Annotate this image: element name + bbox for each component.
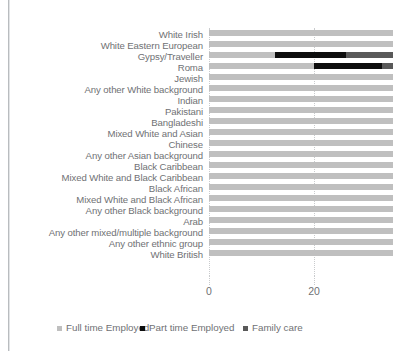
category-label: Pakistani — [165, 105, 203, 116]
chart-row: Any other mixed/multiple background — [0, 226, 414, 237]
bar-segment-full-time-employed — [209, 96, 393, 102]
x-tick-mark — [314, 276, 315, 285]
plot-area: White IrishWhite Eastern EuropeanGypsy/T… — [0, 28, 414, 276]
bar-segment-full-time-employed — [209, 162, 393, 168]
stacked-bar — [209, 195, 394, 201]
chart-container: White IrishWhite Eastern EuropeanGypsy/T… — [0, 0, 414, 351]
stacked-bar — [209, 206, 394, 212]
legend-item[interactable]: Family care — [243, 322, 303, 334]
category-label: Gypsy/Traveller — [138, 50, 203, 61]
stacked-bar — [209, 217, 394, 223]
chart-row: Indian — [0, 94, 414, 105]
stacked-bar — [209, 41, 394, 47]
bar-segment-full-time-employed — [209, 30, 393, 36]
stacked-bar — [209, 228, 394, 234]
category-label: White British — [150, 248, 203, 259]
x-tick-label: 0 — [206, 285, 212, 297]
bar-segment-full-time-employed — [209, 140, 393, 146]
category-label: Any other Asian background — [86, 149, 203, 160]
category-label: Mixed White and Black African — [76, 193, 203, 204]
stacked-bar — [209, 129, 394, 135]
bar-segment-full-time-employed — [209, 63, 314, 69]
category-label: Any other ethnic group — [109, 237, 203, 248]
category-label: Arab — [183, 215, 203, 226]
chart-row: Black African — [0, 182, 414, 193]
legend-swatch-icon — [140, 326, 145, 331]
bar-segment-full-time-employed — [209, 250, 393, 256]
category-rows: White IrishWhite Eastern EuropeanGypsy/T… — [0, 28, 414, 259]
chart-row: Any other White background — [0, 83, 414, 94]
stacked-bar — [209, 239, 394, 245]
chart-row: Any other ethnic group — [0, 237, 414, 248]
category-label: Bangladeshi — [151, 116, 203, 127]
stacked-bar — [209, 162, 394, 168]
chart-row: Mixed White and Black African — [0, 193, 414, 204]
bar-segment-full-time-employed — [209, 52, 275, 58]
bar-segment-part-time-employed — [275, 52, 346, 58]
chart-row: Pakistani — [0, 105, 414, 116]
category-label: White Irish — [159, 28, 203, 39]
category-label: Any other Black background — [86, 204, 203, 215]
bar-segment-full-time-employed — [209, 107, 393, 113]
category-label: White Eastern European — [101, 39, 203, 50]
bar-segment-full-time-employed — [209, 184, 393, 190]
x-axis: 020 — [0, 276, 414, 302]
bar-segment-full-time-employed — [209, 85, 393, 91]
bar-segment-part-time-employed — [314, 63, 382, 69]
chart-row: White Eastern European — [0, 39, 414, 50]
stacked-bar — [209, 52, 394, 58]
stacked-bar — [209, 63, 394, 69]
stacked-bar — [209, 30, 394, 36]
category-label: Jewish — [174, 72, 203, 83]
stacked-bar — [209, 184, 394, 190]
category-label: Any other mixed/multiple background — [49, 226, 203, 237]
bar-segment-full-time-employed — [209, 195, 393, 201]
stacked-bar — [209, 250, 394, 256]
chart-legend: Full time EmployedPart time EmployedFami… — [0, 318, 414, 338]
chart-row: Mixed White and Black Caribbean — [0, 171, 414, 182]
x-tick-label: 20 — [308, 285, 320, 297]
legend-item[interactable]: Part time Employed — [140, 322, 234, 334]
chart-row: Arab — [0, 215, 414, 226]
category-label: Mixed White and Black Caribbean — [62, 171, 203, 182]
category-label: Mixed White and Asian — [108, 127, 204, 138]
stacked-bar — [209, 173, 394, 179]
bar-segment-full-time-employed — [209, 41, 393, 47]
category-label: Roma — [178, 61, 203, 72]
legend-label: Part time Employed — [149, 322, 234, 334]
chart-row: Gypsy/Traveller — [0, 50, 414, 61]
chart-row: Bangladeshi — [0, 116, 414, 127]
bar-segment-full-time-employed — [209, 74, 393, 80]
stacked-bar — [209, 107, 394, 113]
stacked-bar — [209, 85, 394, 91]
legend-swatch-icon — [243, 326, 248, 331]
bar-segment-full-time-employed — [209, 173, 393, 179]
bar-segment-family-care — [346, 52, 393, 58]
category-label: Chinese — [169, 138, 204, 149]
chart-row: White British — [0, 248, 414, 259]
bar-segment-full-time-employed — [209, 151, 393, 157]
x-tick-mark — [209, 276, 210, 285]
legend-label: Full time Employed — [66, 322, 149, 334]
category-label: Any other White background — [85, 83, 203, 94]
chart-row: Jewish — [0, 72, 414, 83]
legend-item[interactable]: Full time Employed — [57, 322, 149, 334]
stacked-bar — [209, 140, 394, 146]
bar-segment-full-time-employed — [209, 118, 393, 124]
chart-row: Chinese — [0, 138, 414, 149]
stacked-bar — [209, 151, 394, 157]
chart-row: Mixed White and Asian — [0, 127, 414, 138]
chart-row: Black Caribbean — [0, 160, 414, 171]
legend-label: Family care — [252, 322, 303, 334]
category-label: Indian — [177, 94, 203, 105]
chart-row: Roma — [0, 61, 414, 72]
chart-row: White Irish — [0, 28, 414, 39]
legend-swatch-icon — [57, 326, 62, 331]
bar-segment-full-time-employed — [209, 228, 393, 234]
stacked-bar — [209, 118, 394, 124]
bar-segment-full-time-employed — [209, 239, 393, 245]
bar-segment-full-time-employed — [209, 217, 393, 223]
chart-row: Any other Black background — [0, 204, 414, 215]
chart-row: Any other Asian background — [0, 149, 414, 160]
stacked-bar — [209, 74, 394, 80]
